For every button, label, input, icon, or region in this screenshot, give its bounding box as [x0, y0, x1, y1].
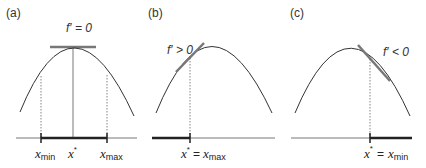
panel-b-derivative-label: f′ > 0	[167, 43, 193, 57]
panel-a-derivative-label: f′ = 0	[66, 21, 92, 35]
panel-c-label: (c)	[290, 6, 304, 20]
panel-a-xmin-label: xmin	[34, 146, 55, 162]
optimization-diagram: (a) f′ = 0 xmin x* xmax (b) f′ > 0	[0, 0, 426, 168]
panel-a-xstar-label: x*	[67, 145, 77, 161]
panel-a-curve	[20, 48, 134, 116]
panel-b-label: (b)	[148, 6, 163, 20]
panel-a-xmax-label: xmax	[99, 146, 123, 162]
panel-c-derivative-label: f′ < 0	[383, 45, 409, 59]
panel-c: (c) f′ < 0 x*=xmin	[290, 6, 412, 162]
panel-b-x-label: x*=xmax	[180, 145, 226, 162]
panel-b: (b) f′ > 0 x*=xmax	[148, 6, 275, 162]
panel-a-label: (a)	[6, 6, 21, 20]
panel-c-x-label: x*=xmin	[363, 144, 408, 162]
panel-a: (a) f′ = 0 xmin x* xmax	[6, 6, 137, 162]
